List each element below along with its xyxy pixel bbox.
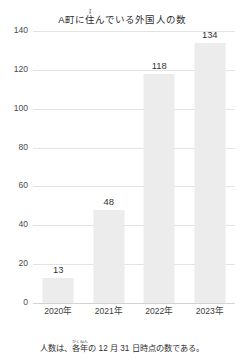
- chart-caption-after: の 12 月 31 日時点の数である。: [88, 344, 203, 353]
- chart-title-ruby: 住す: [85, 14, 95, 25]
- y-tick-label: 40: [0, 220, 28, 229]
- chart-caption-ruby: 各年かくねん: [72, 344, 88, 353]
- x-tick-label: 2022年: [134, 306, 185, 317]
- chart-caption-before: 人数は、: [40, 344, 72, 353]
- chart-title-ruby-text: す: [85, 9, 95, 14]
- bar-value-label: 13: [53, 265, 63, 275]
- chart-caption-ruby-text: かくねん: [72, 339, 88, 344]
- bar-group: 13: [33, 31, 84, 303]
- chart-caption: 人数は、各年かくねんの 12 月 31 日時点の数である。: [0, 339, 244, 355]
- x-axis-tick-labels: 2020年2021年2022年2023年: [33, 306, 235, 320]
- y-tick-label: 80: [0, 143, 28, 152]
- bar-group: 134: [185, 31, 236, 303]
- plot-area: 1348118134: [33, 31, 235, 303]
- y-tick-label: 20: [0, 259, 28, 268]
- bar[interactable]: [194, 43, 225, 303]
- chart-title: A町に住すんでいる外国人の数: [0, 9, 244, 26]
- bar-value-label: 134: [202, 30, 218, 40]
- bar[interactable]: [43, 278, 74, 303]
- x-tick-label: 2020年: [33, 306, 84, 317]
- bar[interactable]: [93, 210, 124, 303]
- chart-title-after: んでいる外国人の数: [95, 14, 186, 25]
- chart-caption-ruby-base: 各年: [72, 344, 88, 353]
- y-tick-label: 100: [0, 104, 28, 113]
- gridline: [33, 303, 235, 304]
- bar-series: 1348118134: [33, 31, 235, 303]
- bar-group: 48: [84, 31, 135, 303]
- x-tick-label: 2023年: [185, 306, 236, 317]
- bar-chart-figure: A町に住すんでいる外国人の数 1348118134 02040608010012…: [0, 0, 244, 361]
- bar[interactable]: [144, 74, 175, 303]
- bar-value-label: 48: [104, 197, 114, 207]
- x-tick-label: 2021年: [84, 306, 135, 317]
- y-tick-label: 60: [0, 181, 28, 190]
- y-tick-label: 140: [0, 26, 28, 35]
- bar-value-label: 118: [152, 61, 167, 71]
- y-tick-label: 0: [0, 298, 28, 307]
- chart-title-ruby-base: 住: [85, 14, 95, 25]
- chart-title-before: A町に: [58, 14, 85, 25]
- y-tick-label: 120: [0, 65, 28, 74]
- bar-group: 118: [134, 31, 185, 303]
